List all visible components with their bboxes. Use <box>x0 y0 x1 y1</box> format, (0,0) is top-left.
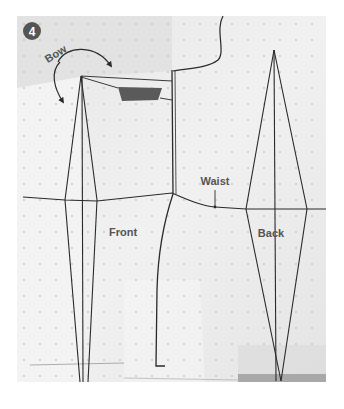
sewing-pattern-figure: 4 Bow <box>0 0 344 409</box>
waist-point-marker <box>214 206 217 209</box>
tape-piece <box>118 87 162 101</box>
step-number: 4 <box>29 25 36 39</box>
front-label: Front <box>109 226 137 238</box>
step-badge: 4 <box>23 22 41 40</box>
back-label: Back <box>258 227 285 239</box>
pattern-illustration: 4 Bow <box>0 0 344 409</box>
waist-label: Waist <box>201 175 230 187</box>
